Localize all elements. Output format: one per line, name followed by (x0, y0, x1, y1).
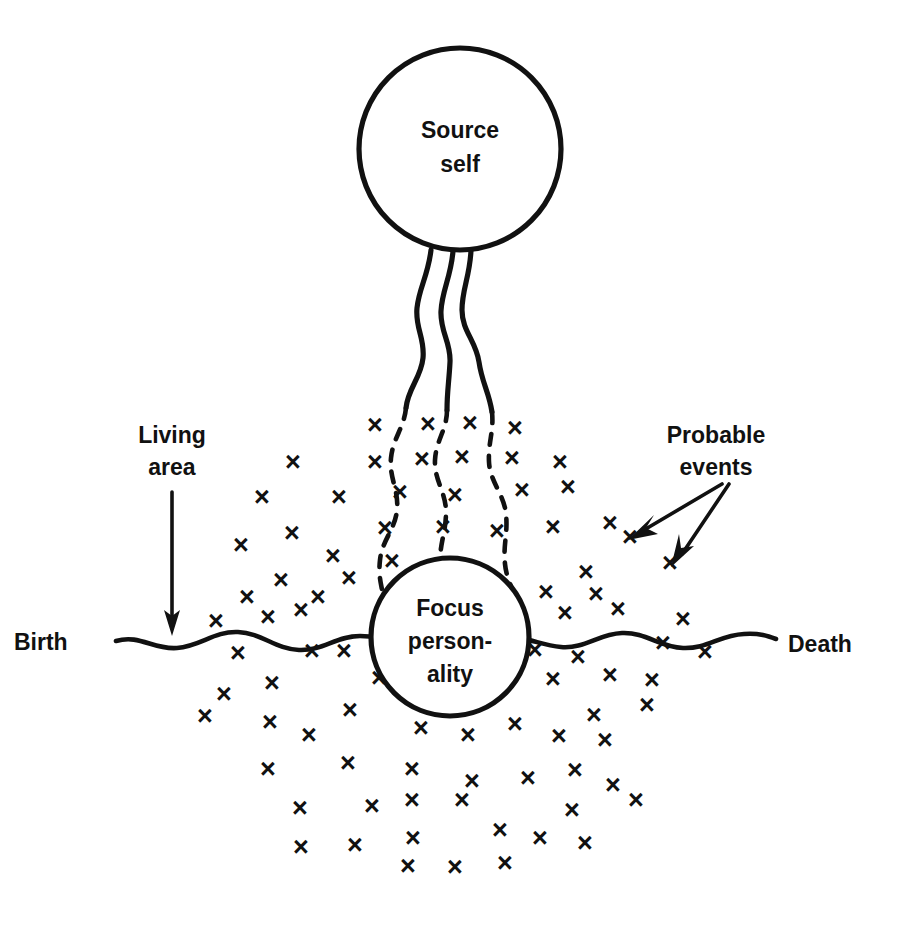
probable-event-mark: × (260, 602, 276, 632)
probable-event-mark: × (597, 725, 613, 755)
probable-event-mark: × (254, 482, 270, 512)
probable-event-mark: × (284, 518, 300, 548)
probable-event-mark: × (230, 638, 246, 668)
probable-event-mark: × (577, 828, 593, 858)
source-self-circle (359, 48, 561, 250)
living-area-annotation: Living area (138, 422, 206, 636)
living-area-label-line1: Living (138, 422, 206, 448)
probable-events-annotation: Probable events (628, 422, 765, 567)
probable-event-mark: × (273, 565, 289, 595)
source-cord-right-solid (462, 250, 492, 412)
focus-personality-node[interactable]: Focus person- ality (371, 558, 529, 716)
probable-event-mark: × (341, 563, 357, 593)
probable-event-mark: × (504, 443, 520, 473)
probable-event-mark: × (264, 668, 280, 698)
living-area-label-line2: area (148, 454, 196, 480)
probable-event-mark: × (497, 848, 513, 878)
probable-event-mark: × (414, 444, 430, 474)
probable-event-mark: × (545, 664, 561, 694)
probable-event-mark: × (262, 707, 278, 737)
probable-event-mark: × (532, 823, 548, 853)
probable-events-label-line1: Probable (667, 422, 765, 448)
probable-event-mark: × (507, 413, 523, 443)
probable-event-mark: × (545, 512, 561, 542)
probable-event-mark: × (364, 791, 380, 821)
probable-event-mark: × (520, 763, 536, 793)
birth-label: Birth (14, 629, 68, 655)
probable-event-mark: × (447, 480, 463, 510)
probable-event-mark: × (342, 695, 358, 725)
probable-event-mark: × (610, 594, 626, 624)
source-self-node[interactable]: Source self (359, 48, 561, 250)
probable-event-mark: × (557, 598, 573, 628)
focus-personality-label-line2: person- (408, 628, 492, 654)
probable-event-mark: × (404, 785, 420, 815)
probable-events-label-line2: events (680, 454, 753, 480)
focus-personality-label-line1: Focus (416, 595, 484, 621)
probable-event-mark: × (602, 660, 618, 690)
source-self-label-line1: Source (421, 117, 499, 143)
source-cord-left-solid (406, 250, 431, 408)
probable-events-arrow1-shaft (644, 484, 722, 530)
probable-event-mark: × (331, 482, 347, 512)
probable-event-mark: × (454, 785, 470, 815)
focus-personality-label-line3: ality (427, 661, 473, 687)
probable-event-mark: × (367, 447, 383, 477)
probable-event-mark: × (602, 508, 618, 538)
diagram-canvas: ××××××××××××××××××××××××××××××××××××××××… (0, 0, 904, 928)
probable-event-mark: × (293, 595, 309, 625)
probable-events-diagram: ××××××××××××××××××××××××××××××××××××××××… (0, 0, 904, 928)
probable-event-mark: × (301, 720, 317, 750)
probable-event-mark: × (560, 472, 576, 502)
probable-event-mark: × (454, 442, 470, 472)
probable-event-mark: × (293, 832, 309, 862)
probable-event-mark: × (628, 785, 644, 815)
probable-event-mark: × (639, 690, 655, 720)
probable-event-mark: × (404, 754, 420, 784)
probable-event-mark: × (462, 408, 478, 438)
probable-event-mark: × (460, 720, 476, 750)
probable-event-mark: × (400, 851, 416, 881)
probable-event-mark: × (216, 679, 232, 709)
probable-event-mark: × (310, 582, 326, 612)
probable-event-mark: × (413, 713, 429, 743)
probable-event-mark: × (605, 770, 621, 800)
probable-event-mark: × (197, 701, 213, 731)
probable-event-mark: × (507, 709, 523, 739)
probable-event-mark: × (538, 577, 554, 607)
probable-event-mark: × (367, 410, 383, 440)
probable-event-mark: × (514, 475, 530, 505)
probable-event-mark: × (567, 755, 583, 785)
probable-event-mark: × (347, 830, 363, 860)
probable-event-mark: × (239, 582, 255, 612)
life-horizon-line-left (116, 632, 395, 650)
probable-event-mark: × (489, 516, 505, 546)
probable-event-mark: × (492, 815, 508, 845)
probable-event-mark: × (588, 579, 604, 609)
probable-event-mark: × (260, 754, 276, 784)
probable-event-mark: × (675, 604, 691, 634)
probable-event-mark: × (233, 530, 249, 560)
probable-event-mark: × (564, 795, 580, 825)
source-cord-middle-solid (441, 251, 453, 410)
probable-event-mark: × (325, 541, 341, 571)
probable-event-mark: × (340, 748, 356, 778)
source-self-label-line2: self (440, 151, 480, 177)
probable-event-mark: × (447, 852, 463, 882)
life-horizon-line-right (508, 633, 776, 648)
death-label: Death (788, 631, 852, 657)
probable-event-mark: × (551, 721, 567, 751)
probable-event-mark: × (384, 546, 400, 576)
probable-event-mark: × (285, 447, 301, 477)
probable-event-mark: × (292, 793, 308, 823)
probable-event-mark: × (405, 823, 421, 853)
probable-event-mark: × (420, 409, 436, 439)
